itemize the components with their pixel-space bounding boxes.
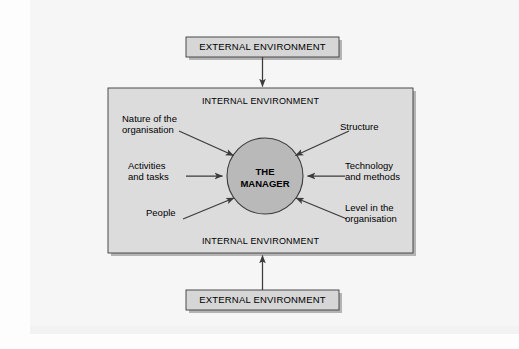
factor-nature-of-organisation-label: Nature of the organisation bbox=[122, 114, 196, 135]
factor-people-label: People bbox=[146, 208, 202, 219]
figure-container: EXTERNAL ENVIRONMENT EXTERNAL ENVIRONMEN… bbox=[0, 0, 519, 349]
external-environment-bottom-label: EXTERNAL ENVIRONMENT bbox=[186, 295, 339, 306]
factor-structure-label: Structure bbox=[340, 122, 410, 133]
internal-environment-top-label: INTERNAL ENVIRONMENT bbox=[108, 96, 413, 106]
factor-technology-and-methods-label: Technology and methods bbox=[345, 161, 417, 182]
manager-label: THE MANAGER bbox=[223, 166, 307, 189]
factor-level-in-organisation-label: Level in the organisation bbox=[345, 203, 417, 224]
internal-environment-bottom-label: INTERNAL ENVIRONMENT bbox=[108, 236, 413, 246]
factor-activities-and-tasks-label: Activities and tasks bbox=[128, 161, 188, 182]
external-environment-top-label: EXTERNAL ENVIRONMENT bbox=[186, 42, 339, 53]
